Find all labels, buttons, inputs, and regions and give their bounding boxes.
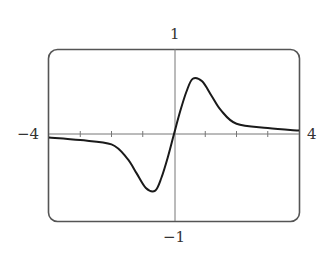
xmin-label: −4 [17,127,39,142]
ymax-label: 1 [170,27,180,42]
ymin-label: −1 [163,230,185,245]
function-curve [49,78,299,191]
xmax-label: 4 [307,127,317,142]
graph-window [0,0,330,255]
